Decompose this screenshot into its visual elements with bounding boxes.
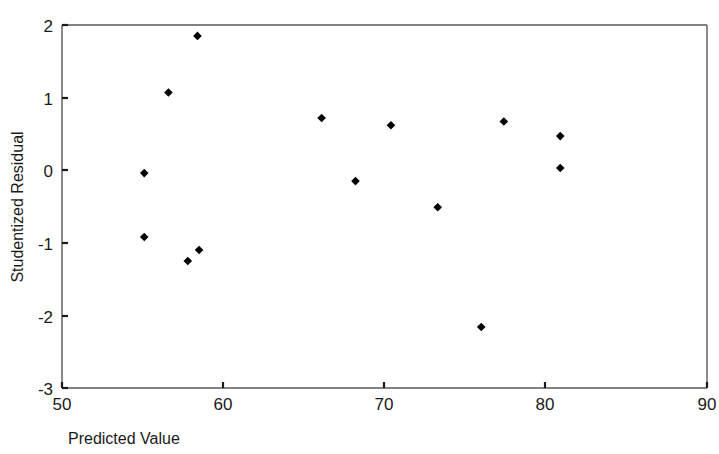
- y-tick-label: -1: [38, 235, 53, 254]
- data-point: [317, 114, 326, 123]
- x-tick-label: 60: [214, 395, 233, 414]
- x-axis-ticks: [62, 382, 707, 388]
- x-axis-title: Predicted Value: [68, 430, 180, 447]
- data-point: [164, 88, 173, 97]
- data-point-series: [140, 32, 565, 332]
- data-point: [140, 169, 149, 178]
- y-axis-title: Studentized Residual: [9, 131, 26, 282]
- data-point: [195, 246, 204, 255]
- data-point: [556, 164, 565, 173]
- data-point: [556, 132, 565, 141]
- axis-lines: [62, 25, 707, 388]
- data-point: [433, 203, 442, 212]
- scatter-plot-figure: 2 1 0 -1 -2 -3 50 60 70 80 90 Studentize…: [0, 0, 719, 454]
- data-point: [351, 177, 360, 186]
- y-tick-label: -2: [38, 308, 53, 327]
- x-tick-label: 50: [53, 395, 72, 414]
- plot-canvas: 2 1 0 -1 -2 -3 50 60 70 80 90 Studentize…: [0, 0, 719, 454]
- data-point: [193, 32, 202, 41]
- y-axis-ticks: [62, 25, 68, 388]
- x-tick-label: 70: [375, 395, 394, 414]
- y-axis-tick-labels: 2 1 0 -1 -2 -3: [38, 17, 53, 399]
- y-tick-label: -3: [38, 380, 53, 399]
- x-tick-label: 90: [698, 395, 717, 414]
- x-tick-label: 80: [536, 395, 555, 414]
- y-tick-label: 2: [44, 17, 53, 36]
- data-point: [477, 323, 486, 332]
- x-axis-tick-labels: 50 60 70 80 90: [53, 395, 717, 414]
- y-tick-label: 0: [44, 162, 53, 181]
- data-point: [387, 121, 396, 130]
- data-point: [500, 117, 509, 126]
- y-tick-label: 1: [44, 90, 53, 109]
- data-point: [183, 257, 192, 266]
- data-point: [140, 233, 149, 242]
